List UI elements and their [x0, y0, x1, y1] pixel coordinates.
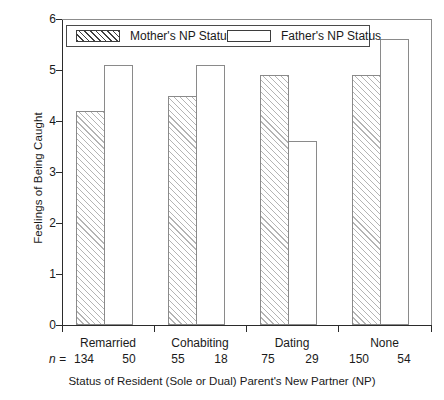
y-tick-label-6: 6 — [30, 13, 56, 25]
x-tick-2 — [246, 326, 247, 332]
bar-none-father — [380, 39, 409, 325]
bar-chart: Feelings of Being Caught 6 5 4 3 2 1 0 R… — [0, 0, 444, 400]
legend-swatch-open-icon — [227, 30, 271, 42]
plot-area — [62, 19, 432, 325]
x-category-label-remarried: Remarried — [62, 336, 154, 350]
legend-label-father: Father's NP Status — [281, 29, 381, 43]
legend-label-mother: Mother's NP Status — [130, 29, 233, 43]
bar-none-mother — [352, 75, 381, 325]
n-cohabiting-father: 18 — [199, 352, 243, 366]
bar-cohabiting-father — [196, 65, 225, 325]
y-tick-label-2: 2 — [30, 217, 56, 229]
legend-entry-mother: Mother's NP Status — [76, 26, 233, 46]
n-cohabiting-mother: 55 — [156, 352, 200, 366]
bar-dating-mother — [260, 75, 289, 325]
x-axis-line — [62, 325, 432, 326]
n-dating-mother: 75 — [246, 352, 290, 366]
x-category-label-cohabiting: Cohabiting — [154, 336, 246, 350]
n-none-father: 54 — [382, 352, 426, 366]
x-category-label-dating: Dating — [246, 336, 338, 350]
n-none-mother: 150 — [337, 352, 381, 366]
x-tick-1 — [154, 326, 155, 332]
x-tick-0 — [62, 326, 63, 332]
n-remarried-mother: 134 — [62, 352, 106, 366]
x-axis-title: Status of Resident (Sole or Dual) Parent… — [0, 375, 444, 387]
legend-swatch-hatched-icon — [76, 30, 120, 42]
bar-remarried-father — [104, 65, 133, 325]
bar-cohabiting-mother — [168, 96, 197, 326]
n-remarried-father: 50 — [107, 352, 151, 366]
x-tick-4 — [431, 326, 432, 332]
legend: Mother's NP Status Father's NP Status — [66, 25, 370, 47]
x-tick-3 — [338, 326, 339, 332]
n-dating-father: 29 — [290, 352, 334, 366]
x-category-label-none: None — [338, 336, 431, 350]
y-tick-label-0: 0 — [30, 319, 56, 331]
y-tick-label-1: 1 — [30, 268, 56, 280]
y-tick-label-3: 3 — [30, 166, 56, 178]
y-tick-label-4: 4 — [30, 115, 56, 127]
legend-entry-father: Father's NP Status — [227, 26, 381, 46]
y-tick-label-5: 5 — [30, 64, 56, 76]
bar-remarried-mother — [76, 111, 105, 325]
bar-dating-father — [288, 141, 317, 325]
